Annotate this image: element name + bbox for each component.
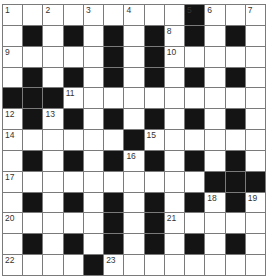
crossword-cell[interactable] xyxy=(104,172,123,192)
crossword-cell[interactable] xyxy=(23,213,42,233)
crossword-cell[interactable] xyxy=(226,255,245,275)
crossword-cell[interactable] xyxy=(205,47,224,67)
crossword-cell[interactable] xyxy=(246,68,265,88)
crossword-cell[interactable] xyxy=(124,109,143,129)
crossword-cell[interactable] xyxy=(3,68,22,88)
crossword-cell[interactable] xyxy=(23,255,42,275)
crossword-cell[interactable] xyxy=(246,47,265,67)
crossword-cell[interactable] xyxy=(3,151,22,171)
crossword-cell[interactable]: 15 xyxy=(145,130,164,150)
crossword-cell[interactable] xyxy=(185,172,204,192)
crossword-cell[interactable] xyxy=(43,151,62,171)
crossword-cell[interactable] xyxy=(246,88,265,108)
crossword-cell[interactable]: 4 xyxy=(124,5,143,25)
crossword-cell[interactable] xyxy=(205,26,224,46)
crossword-cell[interactable] xyxy=(104,88,123,108)
crossword-cell[interactable] xyxy=(43,68,62,88)
crossword-cell[interactable] xyxy=(165,255,184,275)
crossword-cell[interactable] xyxy=(205,234,224,254)
crossword-cell[interactable] xyxy=(64,5,83,25)
crossword-cell[interactable] xyxy=(23,172,42,192)
crossword-cell[interactable]: 21 xyxy=(165,213,184,233)
crossword-cell[interactable] xyxy=(205,88,224,108)
crossword-cell[interactable] xyxy=(124,234,143,254)
crossword-cell[interactable]: 7 xyxy=(246,5,265,25)
crossword-cell[interactable] xyxy=(84,26,103,46)
crossword-cell[interactable]: 18 xyxy=(205,193,224,213)
crossword-cell[interactable] xyxy=(64,47,83,67)
crossword-cell[interactable] xyxy=(165,151,184,171)
crossword-cell[interactable] xyxy=(124,213,143,233)
crossword-cell[interactable] xyxy=(246,109,265,129)
crossword-cell[interactable] xyxy=(246,151,265,171)
crossword-cell[interactable] xyxy=(3,26,22,46)
crossword-cell[interactable] xyxy=(124,68,143,88)
crossword-cell[interactable]: 23 xyxy=(104,255,123,275)
crossword-cell[interactable] xyxy=(43,213,62,233)
crossword-cell[interactable] xyxy=(124,26,143,46)
crossword-cell[interactable] xyxy=(205,109,224,129)
crossword-cell[interactable] xyxy=(124,47,143,67)
crossword-cell[interactable]: 2 xyxy=(43,5,62,25)
crossword-cell[interactable]: 22 xyxy=(3,255,22,275)
crossword-cell[interactable] xyxy=(23,47,42,67)
crossword-cell[interactable] xyxy=(64,255,83,275)
crossword-cell[interactable]: 16 xyxy=(124,151,143,171)
crossword-cell[interactable]: 12 xyxy=(3,109,22,129)
crossword-cell[interactable] xyxy=(165,193,184,213)
crossword-cell[interactable]: 13 xyxy=(43,109,62,129)
crossword-cell[interactable]: 1 xyxy=(3,5,22,25)
crossword-cell[interactable] xyxy=(84,130,103,150)
crossword-cell[interactable] xyxy=(3,234,22,254)
crossword-cell[interactable] xyxy=(226,213,245,233)
crossword-cell[interactable]: 8 xyxy=(165,26,184,46)
crossword-cell[interactable]: 17 xyxy=(3,172,22,192)
crossword-cell[interactable] xyxy=(124,193,143,213)
crossword-cell[interactable] xyxy=(205,213,224,233)
crossword-cell[interactable]: 19 xyxy=(246,193,265,213)
crossword-cell[interactable] xyxy=(64,130,83,150)
crossword-cell[interactable] xyxy=(246,213,265,233)
crossword-cell[interactable] xyxy=(64,213,83,233)
crossword-cell[interactable] xyxy=(145,5,164,25)
crossword-cell[interactable] xyxy=(43,193,62,213)
crossword-cell[interactable] xyxy=(185,213,204,233)
crossword-cell[interactable] xyxy=(84,193,103,213)
crossword-cell[interactable] xyxy=(3,193,22,213)
crossword-cell[interactable]: 10 xyxy=(165,47,184,67)
crossword-cell[interactable] xyxy=(246,130,265,150)
crossword-cell[interactable] xyxy=(43,26,62,46)
crossword-cell[interactable] xyxy=(23,130,42,150)
crossword-cell[interactable] xyxy=(104,5,123,25)
crossword-cell[interactable] xyxy=(145,172,164,192)
crossword-cell[interactable]: 3 xyxy=(84,5,103,25)
crossword-cell[interactable] xyxy=(185,255,204,275)
crossword-cell[interactable] xyxy=(205,255,224,275)
crossword-cell[interactable] xyxy=(165,172,184,192)
crossword-cell[interactable]: 20 xyxy=(3,213,22,233)
crossword-cell[interactable] xyxy=(84,151,103,171)
crossword-cell[interactable]: 11 xyxy=(64,88,83,108)
crossword-cell[interactable] xyxy=(84,172,103,192)
crossword-cell[interactable] xyxy=(43,130,62,150)
crossword-cell[interactable] xyxy=(165,5,184,25)
crossword-cell[interactable] xyxy=(23,5,42,25)
crossword-cell[interactable] xyxy=(226,47,245,67)
crossword-cell[interactable] xyxy=(165,234,184,254)
crossword-cell[interactable] xyxy=(205,130,224,150)
crossword-cell[interactable] xyxy=(165,130,184,150)
crossword-cell[interactable] xyxy=(145,88,164,108)
crossword-cell[interactable] xyxy=(104,130,123,150)
crossword-cell[interactable] xyxy=(165,68,184,88)
crossword-cell[interactable]: 6 xyxy=(205,5,224,25)
crossword-cell[interactable] xyxy=(84,234,103,254)
crossword-cell[interactable] xyxy=(43,234,62,254)
crossword-cell[interactable] xyxy=(145,255,164,275)
crossword-cell[interactable] xyxy=(43,172,62,192)
crossword-cell[interactable] xyxy=(165,109,184,129)
crossword-cell[interactable] xyxy=(124,172,143,192)
crossword-cell[interactable] xyxy=(84,68,103,88)
crossword-cell[interactable] xyxy=(226,130,245,150)
crossword-cell[interactable] xyxy=(246,26,265,46)
crossword-cell[interactable] xyxy=(205,68,224,88)
